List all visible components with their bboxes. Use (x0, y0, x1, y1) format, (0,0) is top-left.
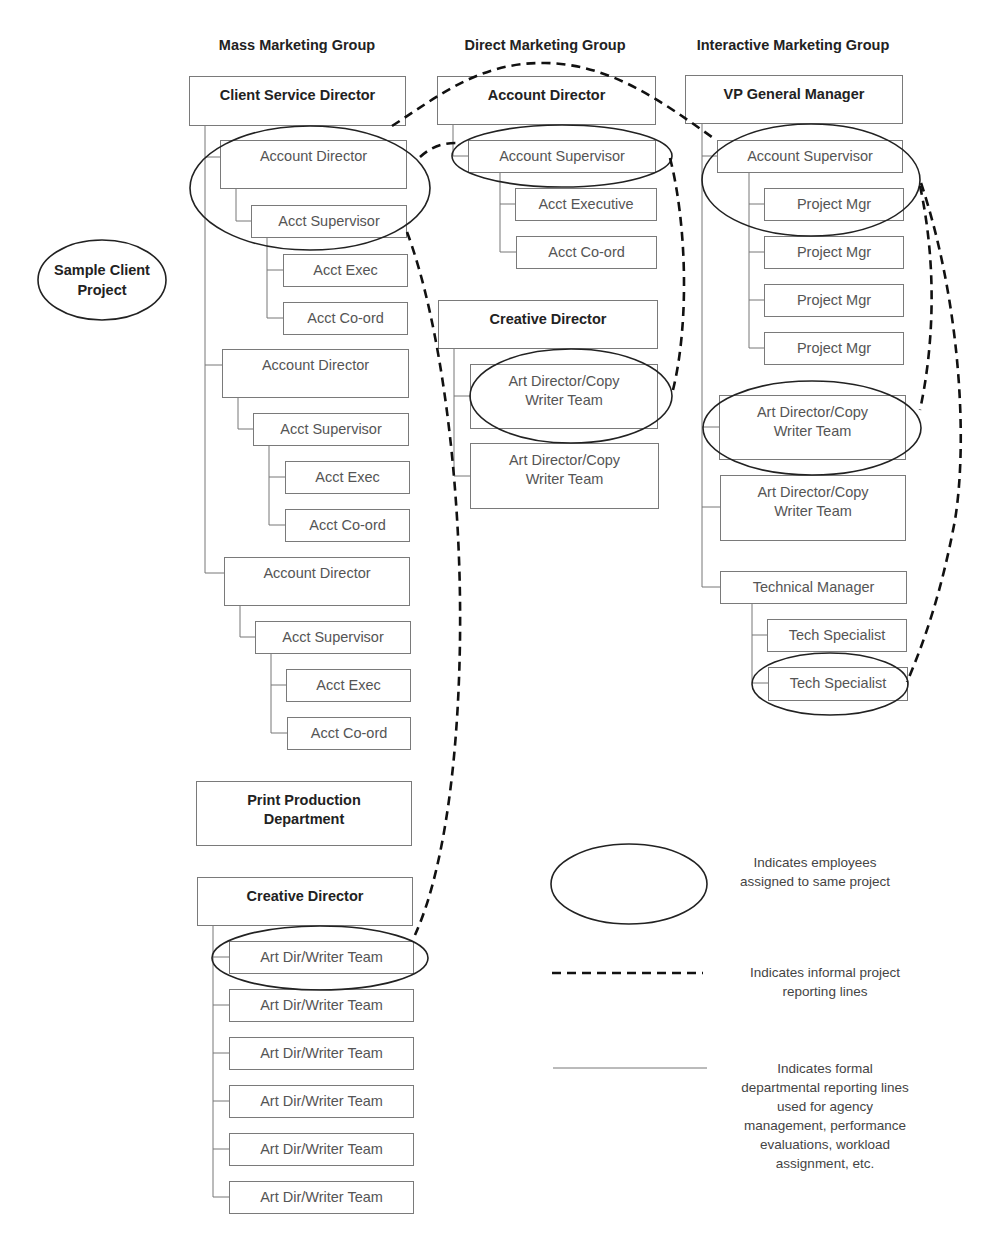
sample-client-line1: Sample Client (38, 260, 166, 280)
box-project-mgr: Project Mgr (764, 236, 904, 269)
box-tech-specialist: Tech Specialist (767, 619, 907, 652)
team-line2: Writer Team (720, 422, 905, 441)
box-acct-supervisor: Acct Supervisor (253, 413, 409, 446)
legend-dashed-line1: Indicates informal project (750, 963, 900, 982)
box-art-director-copy-writer-team: Art Director/Copy Writer Team (720, 475, 906, 541)
legend-solid-line6: assignment, etc. (741, 1154, 908, 1173)
box-account-supervisor: Account Supervisor (717, 140, 903, 173)
box-project-mgr: Project Mgr (764, 188, 904, 221)
box-art-director-copy-writer-team: Art Director/Copy Writer Team (470, 364, 658, 429)
dashed-interactive-to-art (920, 186, 932, 410)
box-acct-coord: Acct Co-ord (283, 302, 408, 335)
legend-solid-line3: used for agency (741, 1097, 908, 1116)
box-acct-supervisor: Acct Supervisor (251, 205, 407, 238)
box-art-dir-writer-team: Art Dir/Writer Team (229, 989, 414, 1022)
print-production-line1: Print Production (197, 791, 411, 810)
box-art-dir-writer-team: Art Dir/Writer Team (229, 1085, 414, 1118)
dashed-interactive-to-tech (907, 183, 961, 682)
box-tech-specialist: Tech Specialist (768, 667, 908, 701)
box-art-director-copy-writer-team: Art Director/Copy Writer Team (470, 443, 659, 509)
box-acct-supervisor: Acct Supervisor (255, 621, 411, 654)
team-line1: Art Director/Copy (721, 483, 905, 502)
legend-ellipse-text: Indicates employees assigned to same pro… (740, 853, 890, 891)
sample-client-line2: Project (38, 280, 166, 300)
box-technical-manager: Technical Manager (720, 571, 907, 604)
team-line1: Art Director/Copy (471, 372, 657, 391)
team-line2: Writer Team (471, 391, 657, 410)
box-art-dir-writer-team: Art Dir/Writer Team (229, 941, 414, 974)
box-direct-account-director: Account Director (437, 76, 656, 125)
box-account-director: Account Director (220, 140, 407, 189)
legend-ellipse-line2: assigned to same project (740, 872, 890, 891)
team-line1: Art Director/Copy (720, 403, 905, 422)
legend-dashed-line2: reporting lines (750, 982, 900, 1001)
print-production-line2: Department (197, 810, 411, 829)
team-line2: Writer Team (721, 502, 905, 521)
box-art-dir-writer-team: Art Dir/Writer Team (229, 1181, 414, 1214)
group-title-interactive: Interactive Marketing Group (697, 37, 890, 53)
box-vp-general-manager: VP General Manager (685, 75, 903, 124)
box-client-service-director: Client Service Director (189, 76, 406, 126)
box-account-supervisor: Account Supervisor (468, 140, 656, 173)
legend-solid-line5: evaluations, workload (741, 1135, 908, 1154)
legend-ellipse-line1: Indicates employees (740, 853, 890, 872)
legend-ellipse-icon (551, 844, 707, 924)
group-title-mass: Mass Marketing Group (219, 37, 375, 53)
team-line2: Writer Team (471, 470, 658, 489)
box-acct-coord: Acct Co-ord (285, 509, 410, 542)
box-project-mgr: Project Mgr (764, 332, 904, 365)
box-project-mgr: Project Mgr (764, 284, 904, 317)
box-art-director-copy-writer-team: Art Director/Copy Writer Team (719, 395, 906, 460)
box-acct-exec: Acct Exec (283, 254, 408, 287)
team-line1: Art Director/Copy (471, 451, 658, 470)
legend-solid-line2: departmental reporting lines (741, 1078, 908, 1097)
box-acct-exec: Acct Exec (285, 461, 410, 494)
box-acct-coord: Acct Co-ord (516, 236, 657, 269)
legend-solid-text: Indicates formal departmental reporting … (741, 1059, 908, 1173)
box-creative-director: Creative Director (438, 300, 658, 349)
legend-dashed-text: Indicates informal project reporting lin… (750, 963, 900, 1001)
box-acct-executive: Acct Executive (515, 188, 657, 221)
dashed-direct-to-art (670, 158, 684, 390)
box-print-production: Print Production Department (196, 781, 412, 846)
box-acct-exec: Acct Exec (286, 669, 411, 702)
group-title-direct: Direct Marketing Group (464, 37, 625, 53)
box-account-director: Account Director (224, 557, 410, 606)
sample-client-project-label: Sample Client Project (38, 260, 166, 300)
legend-solid-line1: Indicates formal (741, 1059, 908, 1078)
box-art-dir-writer-team: Art Dir/Writer Team (229, 1133, 414, 1166)
box-creative-director: Creative Director (197, 877, 413, 926)
dashed-mass-to-direct (420, 143, 456, 157)
box-account-director: Account Director (222, 349, 409, 398)
box-art-dir-writer-team: Art Dir/Writer Team (229, 1037, 414, 1070)
box-acct-coord: Acct Co-ord (287, 717, 411, 750)
legend-solid-line4: management, performance (741, 1116, 908, 1135)
